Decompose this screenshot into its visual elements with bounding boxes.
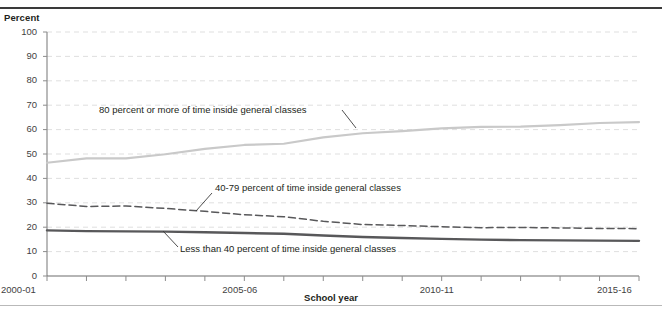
line-chart-plot [0, 0, 662, 313]
y-axis-tick-label: 60 [3, 123, 37, 134]
annotation-leader-line-1 [196, 193, 212, 211]
annotation-leader-line-0 [342, 110, 356, 128]
x-axis-tick-label: 2000-01 [1, 284, 36, 295]
y-axis-tick-label: 100 [3, 26, 37, 37]
y-axis-tick-label: 10 [3, 245, 37, 256]
annotation-label-less-than-40-percent: Less than 40 percent of time inside gene… [180, 243, 396, 254]
annotation-label-80-percent-or-more: 80 percent or more of time inside genera… [99, 104, 307, 115]
annotation-leader-line-2 [163, 231, 178, 247]
x-axis-tick-label: 2015-16 [597, 284, 632, 295]
y-axis-tick-label: 70 [3, 99, 37, 110]
chart-canvas [0, 0, 662, 313]
y-axis-tick-label: 90 [3, 50, 37, 61]
y-axis-tick-label: 20 [3, 221, 37, 232]
series-line-0 [47, 122, 639, 163]
series-line-2 [47, 230, 639, 240]
y-axis-tick-label: 30 [3, 196, 37, 207]
y-axis-tick-label: 80 [3, 74, 37, 85]
annotation-label-40-79-percent: 40-79 percent of time inside general cla… [215, 182, 401, 193]
x-axis-tick-label: 2010-11 [420, 284, 454, 295]
y-axis-tick-label: 50 [3, 148, 37, 159]
y-axis-tick-label: 40 [3, 172, 37, 183]
x-axis-tick-label: 2005-06 [222, 284, 257, 295]
y-axis-tick-label: 0 [3, 270, 37, 281]
series-line-1 [47, 203, 639, 228]
